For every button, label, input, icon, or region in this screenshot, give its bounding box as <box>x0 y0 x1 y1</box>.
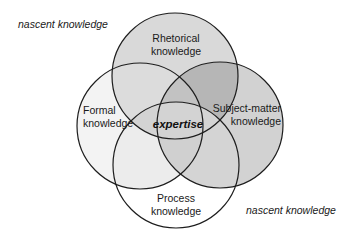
nascent-knowledge-top-left: nascent knowledge <box>18 18 108 30</box>
process-label-line2: knowledge <box>151 205 201 217</box>
process-label-line1: Process <box>157 192 195 204</box>
formal-label-line2: knowledge <box>83 117 133 129</box>
subject-matter-label-line1: Subject-matter <box>213 102 282 114</box>
venn-svg: Rhetorical knowledge Formal knowledge Su… <box>0 0 349 243</box>
formal-label-line1: Formal <box>83 104 116 116</box>
nascent-knowledge-bottom-right: nascent knowledge <box>246 204 336 216</box>
expertise-label: expertise <box>153 118 204 130</box>
venn-diagram: Rhetorical knowledge Formal knowledge Su… <box>0 0 349 243</box>
rhetorical-label-line2: knowledge <box>151 45 201 57</box>
rhetorical-label-line1: Rhetorical <box>152 32 199 44</box>
subject-matter-label-line2: knowledge <box>231 115 281 127</box>
